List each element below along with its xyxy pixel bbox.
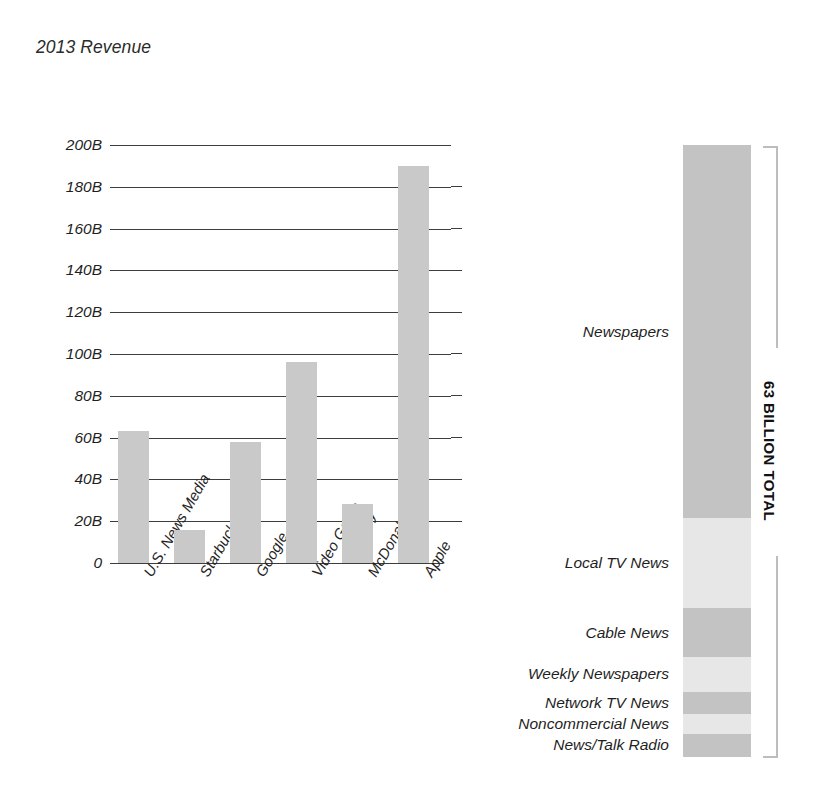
gridline-tick <box>451 437 462 438</box>
y-axis-tick-label: 80B <box>74 387 102 405</box>
gridline-tick <box>451 353 462 354</box>
gridline-tick <box>451 479 462 480</box>
y-axis-tick-label: 60B <box>74 429 102 447</box>
infographic-figure: 2013 Revenue 200B180B160B140B120B100B80B… <box>0 0 832 802</box>
total-bracket-upper <box>763 146 778 348</box>
stack-segment <box>683 714 751 733</box>
stack-segment <box>683 145 751 518</box>
bar-chart-title: 2013 Revenue <box>36 36 151 59</box>
y-axis-tick-label: 120B <box>66 303 102 321</box>
stacked-bar-column: NewspapersLocal TV NewsCable NewsWeekly … <box>683 145 751 757</box>
gridline-tick <box>451 395 462 396</box>
stack-segment-label: Network TV News <box>545 694 669 712</box>
stack-segment-label: Noncommercial News <box>518 715 669 733</box>
gridline-tick <box>451 186 462 187</box>
stack-segment-label: Local TV News <box>565 554 669 572</box>
gridline <box>110 145 451 146</box>
gridline-tick <box>451 312 462 313</box>
total-bracket-lower <box>763 556 778 758</box>
stack-segment <box>683 608 751 657</box>
total-caption: 63 BILLION TOTAL <box>761 381 778 521</box>
y-axis-tick-label: 200B <box>66 136 102 154</box>
y-axis-tick-label: 40B <box>74 470 102 488</box>
stack-segment <box>683 518 751 608</box>
bar <box>118 431 149 563</box>
stack-segment <box>683 692 751 714</box>
stack-segment-label: News/Talk Radio <box>553 736 669 754</box>
y-axis-tick-label: 160B <box>66 220 102 238</box>
stack-segment <box>683 734 751 757</box>
stack-segment-label: Weekly Newspapers <box>528 665 669 683</box>
y-axis-tick-label: 100B <box>66 345 102 363</box>
gridline-tick <box>451 228 462 229</box>
bar-chart-plot-area: 200B180B160B140B120B100B80B60B40B20B0U.S… <box>118 145 443 563</box>
gridline-tick <box>451 521 462 522</box>
gridline-tick <box>451 270 462 271</box>
stack-segment-label: Cable News <box>585 624 669 642</box>
y-axis-tick-label: 0 <box>93 554 102 572</box>
stack-segment <box>683 657 751 692</box>
y-axis-tick-label: 180B <box>66 178 102 196</box>
revenue-bar-chart-panel: 2013 Revenue 200B180B160B140B120B100B80B… <box>0 0 470 802</box>
news-revenue-stack-panel: Where that news revenue comes from Newsp… <box>470 0 832 802</box>
bar <box>230 442 261 563</box>
y-axis-tick-label: 140B <box>66 261 102 279</box>
bar <box>286 362 317 563</box>
bar <box>174 530 205 563</box>
bar <box>342 504 373 563</box>
stack-segment-label: Newspapers <box>583 323 669 341</box>
y-axis-tick-label: 20B <box>74 512 102 530</box>
bar <box>398 166 429 563</box>
